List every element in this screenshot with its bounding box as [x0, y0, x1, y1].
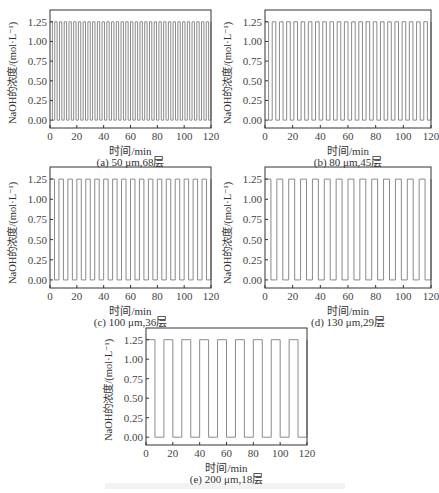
y-tick-label: 0.75: [243, 55, 263, 67]
y-tick-label: 0.00: [28, 274, 48, 286]
y-tick-label: 0.25: [243, 94, 263, 106]
chart-b: 0.000.250.500.751.001.25020406080100120: [265, 10, 431, 128]
x-tick-label: 20: [287, 130, 299, 142]
chart-caption: (a) 50 μm,68层: [97, 153, 165, 169]
y-tick-label: 0.50: [28, 75, 48, 87]
x-tick-label: 0: [47, 290, 53, 302]
y-tick-label: 1.00: [28, 193, 48, 205]
x-tick-label: 0: [262, 130, 268, 142]
x-tick-label: 40: [315, 130, 327, 142]
y-tick-label: 0.00: [28, 114, 48, 126]
y-tick-label: 0.50: [28, 234, 48, 246]
y-axis-title: NaOH的浓度/(mol·L⁻¹): [100, 339, 115, 441]
y-tick-label: 0.25: [28, 94, 48, 106]
x-tick-label: 80: [370, 290, 382, 302]
y-tick-label: 0.00: [243, 114, 263, 126]
x-tick-label: 100: [176, 130, 193, 142]
x-tick-label: 20: [167, 447, 179, 459]
chart-d: 0.000.250.500.751.001.25020406080100120: [265, 167, 431, 288]
y-tick-label: 0.50: [243, 75, 263, 87]
y-axis-title: NaOH的浓度/(mol·L⁻¹): [219, 182, 234, 284]
data-series-line: [146, 340, 307, 438]
y-tick-label: 0.75: [28, 55, 48, 67]
chart-e: 0.000.250.500.751.001.25020406080100120: [146, 328, 307, 445]
figure: 0.000.250.500.751.001.25020406080100120 …: [0, 0, 439, 493]
y-tick-label: 0.75: [124, 373, 144, 385]
y-tick-label: 0.75: [243, 213, 263, 225]
y-tick-label: 0.50: [124, 392, 144, 404]
x-tick-label: 120: [423, 290, 439, 302]
x-tick-label: 40: [98, 130, 110, 142]
x-tick-label: 60: [125, 290, 137, 302]
data-series-line: [50, 22, 211, 120]
chart-caption: (d) 130 μm,29层: [311, 313, 385, 329]
x-tick-label: 60: [125, 130, 137, 142]
x-tick-label: 60: [343, 130, 355, 142]
data-series-line: [265, 22, 431, 120]
chart-a: 0.000.250.500.751.001.25020406080100120: [50, 10, 211, 128]
x-tick-label: 100: [176, 290, 193, 302]
y-tick-label: 0.50: [243, 234, 263, 246]
y-tick-label: 1.25: [124, 334, 144, 346]
y-tick-label: 0.25: [243, 254, 263, 266]
x-tick-label: 40: [315, 290, 327, 302]
y-axis-title: NaOH的浓度/(mol·L⁻¹): [4, 182, 19, 284]
x-tick-label: 60: [343, 290, 355, 302]
y-tick-label: 0.00: [243, 274, 263, 286]
chart-caption: (c) 100 μm,36层: [94, 313, 167, 329]
x-tick-label: 80: [152, 290, 164, 302]
x-tick-label: 100: [395, 290, 412, 302]
y-tick-label: 1.00: [124, 353, 144, 365]
x-tick-label: 60: [221, 447, 233, 459]
x-tick-label: 100: [272, 447, 289, 459]
y-tick-label: 1.25: [243, 16, 263, 28]
y-tick-label: 1.25: [243, 173, 263, 185]
y-axis-title: NaOH的浓度/(mol·L⁻¹): [4, 22, 19, 124]
y-tick-label: 1.00: [243, 193, 263, 205]
chart-c: 0.000.250.500.751.001.25020406080100120: [50, 167, 211, 288]
y-tick-label: 0.25: [124, 412, 144, 424]
data-series-line: [50, 179, 211, 280]
x-tick-label: 80: [248, 447, 260, 459]
y-tick-label: 1.00: [28, 35, 48, 47]
y-tick-label: 0.00: [124, 431, 144, 443]
data-series-line: [265, 179, 431, 280]
x-tick-label: 20: [287, 290, 299, 302]
y-tick-label: 1.25: [28, 16, 48, 28]
x-tick-label: 40: [194, 447, 206, 459]
x-tick-label: 120: [203, 290, 220, 302]
x-tick-label: 0: [262, 290, 268, 302]
y-axis-title: NaOH的浓度/(mol·L⁻¹): [219, 22, 234, 124]
x-tick-label: 100: [395, 130, 412, 142]
x-tick-label: 120: [203, 130, 220, 142]
chart-caption: (b) 80 μm,45层: [314, 153, 383, 169]
x-tick-label: 0: [143, 447, 149, 459]
y-tick-label: 1.00: [243, 35, 263, 47]
x-tick-label: 0: [47, 130, 53, 142]
x-tick-label: 120: [423, 130, 439, 142]
y-tick-label: 0.25: [28, 254, 48, 266]
x-tick-label: 20: [71, 130, 83, 142]
x-tick-label: 120: [299, 447, 316, 459]
x-tick-label: 80: [370, 130, 382, 142]
y-tick-label: 1.25: [28, 173, 48, 185]
x-tick-label: 80: [152, 130, 164, 142]
x-tick-label: 40: [98, 290, 110, 302]
y-tick-label: 0.75: [28, 213, 48, 225]
chart-caption: (e) 200 μm,18层: [190, 470, 263, 486]
x-tick-label: 20: [71, 290, 83, 302]
